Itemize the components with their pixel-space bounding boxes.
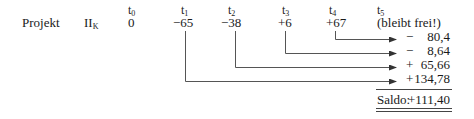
result-value-2: 65,66	[421, 58, 450, 71]
result-value-3: 134,78	[414, 72, 450, 85]
arrow-t4	[336, 31, 397, 40]
result-value-1: 8,64	[427, 44, 450, 57]
saldo-label: Saldo:	[377, 93, 410, 106]
result-sign-1: −	[406, 44, 413, 57]
arrow-t3	[286, 31, 397, 54]
result-sign-0: −	[406, 30, 413, 43]
result-value-0: 80,4	[427, 30, 450, 43]
result-sign-2: +	[406, 58, 413, 71]
arrow-t2	[236, 31, 397, 68]
result-sign-3: +	[406, 72, 413, 85]
saldo-value: +111,40	[408, 93, 450, 106]
arrow-t1	[186, 31, 397, 82]
